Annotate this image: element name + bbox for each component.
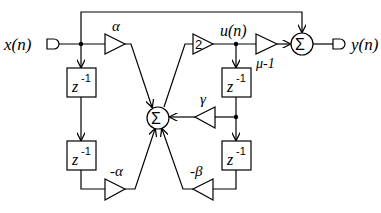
internal-label: u(n) [220, 22, 247, 40]
gain-alpha-label: α [112, 18, 121, 34]
delay-left-1-exp: -1 [81, 72, 91, 84]
delay-right-2-label: z [226, 151, 234, 168]
signal-flow-diagram: x(n) α z -1 z -1 -α Σ 2 u(n) μ-1 Σ y(n) … [0, 0, 381, 213]
delay-left-2-label: z [71, 151, 79, 168]
output-port-icon [333, 39, 345, 49]
gain-gamma-label: γ [200, 91, 207, 107]
gain-neg-alpha-label: -α [110, 163, 124, 179]
sum-output-symbol: Σ [295, 36, 305, 53]
wire-to-neg-beta [213, 170, 236, 189]
delay-left-2-exp: -1 [81, 145, 91, 157]
neg-alpha-to-sum-wire [125, 129, 155, 189]
output-label: y(n) [349, 35, 379, 54]
gain-two-label: 2 [195, 37, 202, 52]
gain-gamma [195, 107, 215, 128]
sum-to-gain2-wire [164, 44, 193, 107]
gain-neg-beta-label: -β [190, 163, 203, 179]
input-port-icon [47, 39, 59, 49]
delay-right-2-exp: -1 [236, 145, 246, 157]
delay-left-1-label: z [71, 78, 79, 95]
delay-right-1-exp: -1 [236, 72, 246, 84]
wire-to-neg-alpha [81, 170, 105, 189]
gain-mu-minus-1-label: μ-1 [255, 56, 275, 71]
neg-beta-to-sum-wire [162, 129, 193, 189]
input-label: x(n) [3, 35, 32, 54]
gain-neg-beta [193, 179, 213, 200]
gain-mu-minus-1 [256, 34, 277, 54]
gain-alpha [105, 34, 125, 54]
delay-right-1-label: z [226, 78, 234, 95]
gain-neg-alpha [105, 179, 125, 200]
alpha-to-sum-wire [125, 44, 152, 107]
sum-center-symbol: Σ [151, 110, 161, 127]
